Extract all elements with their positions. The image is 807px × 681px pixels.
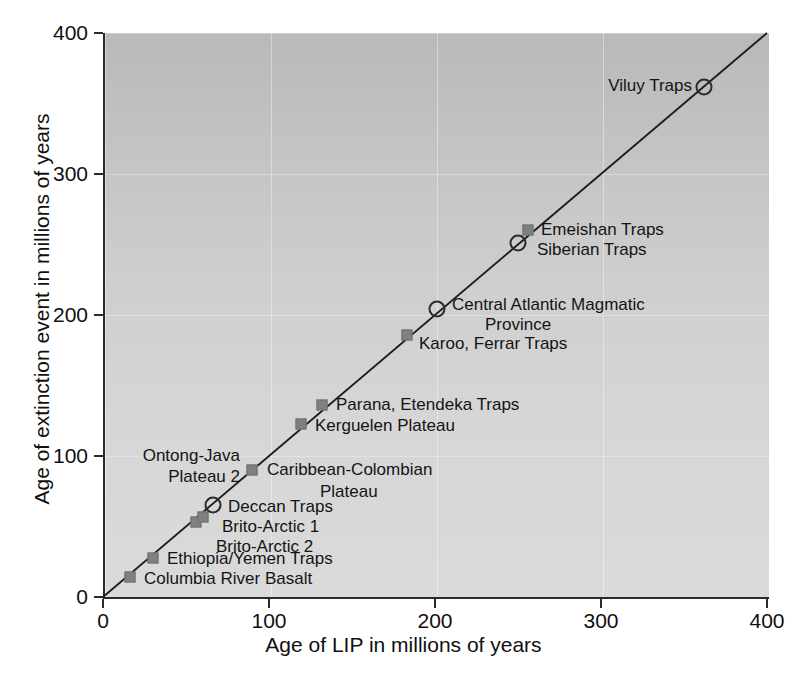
data-point-kerguelen-plateau[interactable] — [295, 418, 306, 429]
data-point-siberian-traps[interactable] — [510, 235, 527, 252]
x-axis-title: Age of LIP in millions of years — [0, 633, 807, 657]
label-camp-line1: Central Atlantic Magmatic — [452, 295, 645, 315]
x-tick-label-300: 300 — [583, 609, 618, 633]
label-siberian-traps: Siberian Traps — [537, 240, 647, 260]
x-tick-label-100: 100 — [251, 609, 286, 633]
y-tick-300 — [94, 173, 103, 175]
label-columbia-river-basalt: Columbia River Basalt — [144, 569, 312, 589]
x-tick-100 — [268, 599, 270, 608]
label-brito-arctic-1: Brito-Arctic 1 — [222, 517, 319, 537]
x-tick-200 — [434, 599, 436, 608]
x-tick-400 — [766, 599, 768, 608]
label-ontong-line2: Plateau 2 — [168, 467, 240, 487]
label-parana-etendeka-traps: Parana, Etendeka Traps — [336, 395, 519, 415]
data-point-columbia-river-basalt[interactable] — [124, 572, 135, 583]
label-emeishan-traps: Emeishan Traps — [541, 220, 664, 240]
data-point-parana-etendeka-traps[interactable] — [317, 400, 328, 411]
label-deccan-traps: Deccan Traps — [228, 497, 333, 517]
label-viluy-traps: Viluy Traps — [608, 76, 692, 96]
x-tick-300 — [600, 599, 602, 608]
data-point-viluy-traps[interactable] — [696, 78, 713, 95]
y-tick-200 — [94, 314, 103, 316]
data-point-karoo-ferrar-traps[interactable] — [401, 329, 412, 340]
data-point-deccan-traps[interactable] — [204, 497, 221, 514]
x-tick-label-0: 0 — [97, 609, 109, 633]
label-kerguelen-plateau: Kerguelen Plateau — [315, 416, 455, 436]
x-tick-label-400: 400 — [749, 609, 784, 633]
y-axis-title: Age of extinction event in millions of y… — [30, 29, 54, 589]
label-ethiopia-yemen-traps: Ethiopia/Yemen Traps — [167, 549, 333, 569]
data-point-ethiopia-yemen-traps[interactable] — [147, 552, 158, 563]
label-karoo-ferrar-traps: Karoo, Ferrar Traps — [419, 334, 567, 354]
label-camp-line2: Province — [485, 315, 551, 335]
data-point-caribbean-colombian-plateau[interactable] — [247, 465, 258, 476]
data-point-brito-arctic-1[interactable] — [197, 511, 208, 522]
label-caribbean-line1: Caribbean-Colombian — [267, 460, 432, 480]
data-point-emeishan-traps[interactable] — [523, 225, 534, 236]
y-tick-0 — [94, 596, 103, 598]
y-tick-400 — [94, 32, 103, 34]
y-tick-100 — [94, 455, 103, 457]
data-point-central-atlantic-magmatic-province[interactable] — [428, 301, 445, 318]
label-ontong-line1: Ontong-Java — [143, 446, 240, 466]
x-tick-0 — [102, 599, 104, 608]
scatter-plot-figure: 0 100 200 300 400 0 100 200 300 400 Age … — [0, 0, 807, 681]
x-tick-label-200: 200 — [417, 609, 452, 633]
